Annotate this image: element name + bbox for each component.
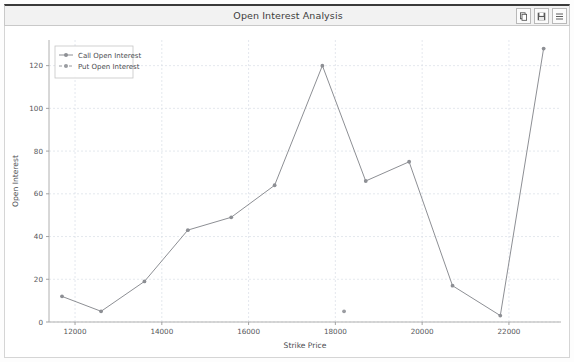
save-button[interactable] bbox=[534, 8, 549, 24]
legend-label: Call Open Interest bbox=[78, 52, 141, 60]
chart-window: Open Interest Analysis bbox=[0, 0, 574, 362]
data-point bbox=[99, 309, 103, 313]
y-tick-label: 40 bbox=[34, 232, 44, 241]
data-point bbox=[320, 64, 324, 68]
series-0 bbox=[60, 47, 545, 318]
copy-button[interactable] bbox=[516, 8, 531, 24]
line-chart: 120001400016000180002000022000 020406080… bbox=[5, 26, 571, 358]
menu-icon bbox=[555, 12, 564, 21]
x-axis-title: Strike Price bbox=[284, 341, 327, 350]
x-tick-label: 20000 bbox=[411, 327, 434, 336]
data-point bbox=[342, 309, 346, 313]
y-tick-label: 120 bbox=[29, 61, 43, 70]
y-tick-label: 20 bbox=[34, 275, 44, 284]
y-tick-label: 0 bbox=[38, 318, 43, 327]
legend[interactable]: Call Open InterestPut Open Interest bbox=[55, 46, 141, 78]
tick-marks bbox=[46, 66, 509, 325]
copy-icon bbox=[519, 12, 528, 21]
y-tick-label: 100 bbox=[29, 104, 43, 113]
x-tick-label: 12000 bbox=[64, 327, 87, 336]
x-tick-label: 16000 bbox=[237, 327, 260, 336]
plot-area: 120001400016000180002000022000 020406080… bbox=[5, 26, 571, 358]
data-point bbox=[60, 294, 64, 298]
y-axis-title: Open Interest bbox=[11, 155, 20, 207]
data-point bbox=[229, 215, 233, 219]
data-point bbox=[143, 280, 147, 284]
floppy-disk-icon bbox=[537, 12, 546, 21]
legend-label: Put Open Interest bbox=[78, 63, 140, 71]
y-tick-label: 80 bbox=[34, 147, 44, 156]
data-point bbox=[364, 179, 368, 183]
x-tick-label: 18000 bbox=[324, 327, 347, 336]
grid-lines bbox=[49, 40, 561, 322]
series-1 bbox=[342, 309, 346, 313]
x-tick-label: 22000 bbox=[497, 327, 520, 336]
legend-marker bbox=[64, 53, 68, 57]
data-point bbox=[273, 183, 277, 187]
window-controls bbox=[516, 8, 567, 24]
data-point bbox=[407, 160, 411, 164]
window-titlebar: Open Interest Analysis bbox=[4, 4, 570, 26]
axes bbox=[49, 40, 561, 322]
data-point bbox=[451, 284, 455, 288]
window-title: Open Interest Analysis bbox=[5, 10, 571, 21]
menu-button[interactable] bbox=[552, 8, 567, 24]
y-tick-label: 60 bbox=[34, 189, 44, 198]
x-tick-labels: 120001400016000180002000022000 bbox=[64, 327, 521, 336]
figure-panel: 120001400016000180002000022000 020406080… bbox=[4, 26, 570, 358]
data-point bbox=[498, 314, 502, 318]
y-tick-labels: 020406080100120 bbox=[29, 61, 43, 326]
x-tick-label: 14000 bbox=[150, 327, 173, 336]
data-point bbox=[186, 228, 190, 232]
data-series bbox=[60, 47, 545, 318]
legend-marker bbox=[64, 64, 68, 68]
data-point bbox=[542, 47, 546, 51]
